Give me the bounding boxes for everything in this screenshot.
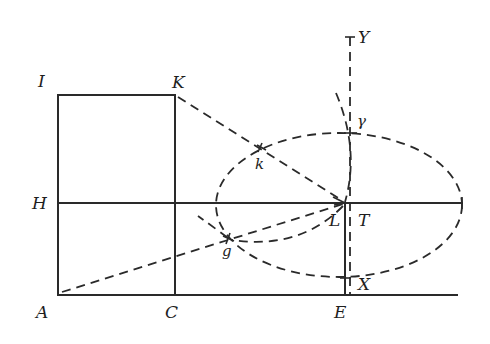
label-C: C [165, 302, 178, 322]
label-X: X [356, 274, 371, 294]
label-I: I [37, 71, 45, 91]
label-H: H [31, 193, 48, 213]
label-A: A [34, 302, 48, 322]
label-g: g [222, 242, 232, 260]
solid-lines [58, 95, 462, 295]
label-T: T [358, 210, 371, 230]
label-gamma: γ [357, 112, 366, 130]
dashed-lines [62, 37, 357, 296]
arc-gamma-L [336, 93, 351, 202]
label-L: L [328, 210, 340, 230]
label-E: E [333, 302, 347, 322]
labels: I K H A C E L T X Y γ k g [31, 27, 371, 322]
label-Y: Y [358, 27, 371, 47]
geometry-diagram: I K H A C E L T X Y γ k g [0, 0, 490, 344]
line-KL [178, 97, 343, 201]
arc-stub-g [198, 216, 228, 238]
arc-L-g [232, 206, 343, 242]
label-k: k [255, 155, 264, 173]
label-K: K [171, 72, 186, 92]
line-AgL [62, 204, 343, 292]
